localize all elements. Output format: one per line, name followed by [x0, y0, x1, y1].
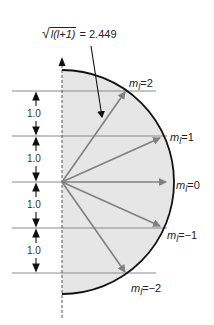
spacing-label-3: 1.0 [27, 200, 41, 210]
ml-label-neg2: ml=−2 [131, 283, 161, 297]
magnitude-label: √l(l+1) = 2.449 [42, 26, 117, 40]
z-axis-arrowhead [59, 57, 66, 66]
spacing-label-4: 1.0 [27, 246, 41, 256]
ml-label-neg1: ml=−1 [167, 230, 197, 244]
spacing-label-2: 1.0 [27, 154, 41, 164]
radicand: l(l+1) [50, 27, 77, 40]
sqrt-icon: √ [42, 25, 50, 41]
ml-label-1: ml=1 [170, 132, 194, 146]
spacing-label-1: 1.0 [27, 109, 41, 119]
magnitude-value: = 2.449 [76, 28, 116, 40]
ml-label-0: ml=0 [176, 180, 200, 194]
ml-label-2: ml=2 [129, 78, 153, 92]
